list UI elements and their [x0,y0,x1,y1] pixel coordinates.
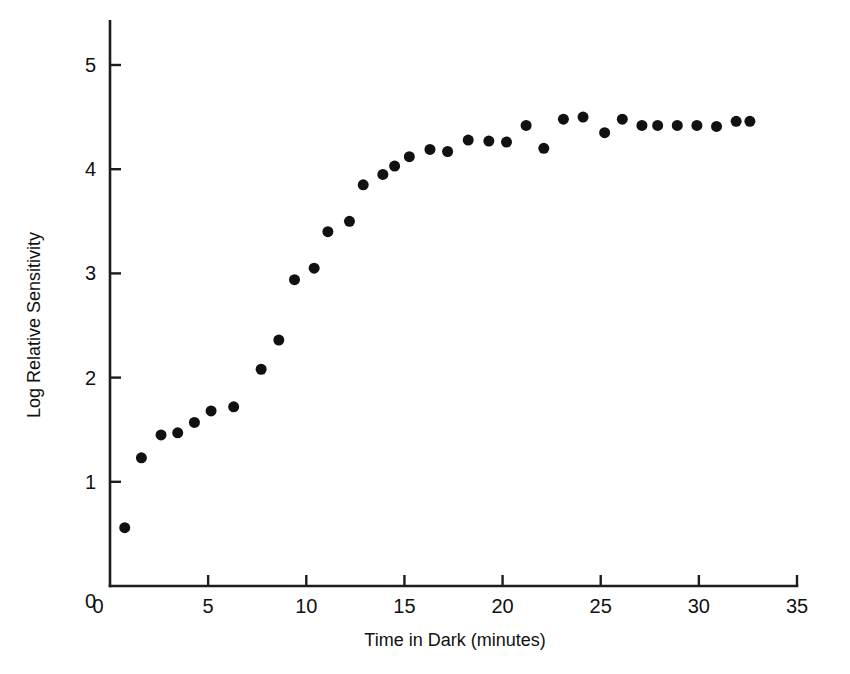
data-point [309,263,320,274]
x-axis-ticks [208,575,797,586]
x-tick-label: 5 [203,595,214,617]
data-point [672,120,683,131]
y-axis-title: Log Relative Sensitivity [24,232,44,418]
data-point [691,120,702,131]
data-point [344,216,355,227]
data-point [501,137,512,148]
x-axis-title: Time in Dark (minutes) [364,630,545,650]
y-tick-label: 5 [85,54,96,76]
data-point [256,364,267,375]
data-point [744,116,755,127]
x-tick-label: 25 [590,595,612,617]
x-tick-label: 15 [393,595,415,617]
y-axis-ticks [110,65,121,482]
axes-group [110,21,797,586]
data-point [156,429,167,440]
data-point [228,401,239,412]
y-tick-label: 0 [85,590,96,612]
x-tick-label: 35 [786,595,808,617]
y-tick-label: 1 [85,471,96,493]
data-point [389,161,400,172]
y-tick-label: 4 [85,158,96,180]
y-axis-tick-labels: 012345 [85,54,96,612]
data-point [652,120,663,131]
data-point [206,405,217,416]
data-point [172,427,183,438]
data-point [463,135,474,146]
y-tick-label: 2 [85,367,96,389]
data-point [377,169,388,180]
dark-adaptation-chart-figure: 05101520253035 012345 Time in Dark (minu… [0,0,850,674]
data-point [636,120,647,131]
data-point [424,144,435,155]
data-point [322,226,333,237]
data-point [558,114,569,125]
x-tick-label: 30 [688,595,710,617]
data-point [711,121,722,132]
data-point [273,335,284,346]
data-point [731,116,742,127]
x-tick-label: 20 [491,595,513,617]
x-tick-label: 10 [295,595,317,617]
data-point [578,112,589,123]
y-tick-label: 3 [85,262,96,284]
data-point [521,120,532,131]
data-point [483,136,494,147]
data-point [358,179,369,190]
data-point [599,127,610,138]
data-point [404,151,415,162]
data-point [538,143,549,154]
x-axis-tick-labels: 05101520253035 [92,595,808,617]
data-point [136,452,147,463]
data-point [119,522,130,533]
data-point [617,114,628,125]
data-point [442,146,453,157]
data-point-series [119,112,755,534]
scatter-plot-svg: 05101520253035 012345 Time in Dark (minu… [0,0,850,674]
data-point [289,274,300,285]
data-point [189,417,200,428]
